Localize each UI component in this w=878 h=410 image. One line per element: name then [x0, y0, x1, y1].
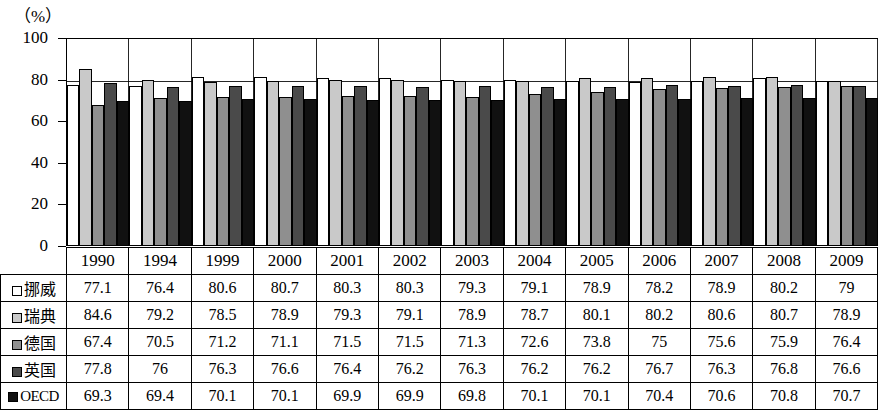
table-cell: 79.1	[503, 275, 565, 302]
table-cell: 76.2	[503, 356, 565, 383]
bar	[653, 89, 665, 245]
table-cell: 78.9	[254, 302, 316, 329]
bar	[691, 81, 703, 245]
table-cell: 78.7	[503, 302, 565, 329]
bar	[79, 69, 91, 245]
table-year-header: 1999	[191, 248, 253, 275]
bar	[317, 78, 329, 245]
legend-item-德国: 德国	[1, 329, 67, 356]
table-row: 德国67.470.571.271.171.571.571.372.673.875…	[1, 329, 878, 356]
table-cell: 80.2	[753, 275, 815, 302]
table-cell: 72.6	[503, 329, 565, 356]
bar	[379, 78, 391, 245]
white-square-icon	[12, 286, 22, 296]
table-year-header: 1994	[129, 248, 191, 275]
table-cell: 76.3	[191, 356, 253, 383]
table-cell: 71.3	[441, 329, 503, 356]
table-corner-cell	[1, 248, 67, 275]
table-year-header: 2006	[628, 248, 690, 275]
table-cell: 78.9	[441, 302, 503, 329]
bar	[304, 99, 316, 245]
table-cell: 80.6	[191, 275, 253, 302]
bar	[479, 86, 491, 245]
table-cell: 70.1	[254, 383, 316, 410]
bar	[441, 80, 453, 245]
table-cell: 79.2	[129, 302, 191, 329]
medium-gray-square-icon	[12, 340, 22, 350]
table-cell: 70.6	[690, 383, 752, 410]
table-cell: 79.3	[441, 275, 503, 302]
table-cell: 76.6	[254, 356, 316, 383]
table-cell: 76.7	[628, 356, 690, 383]
y-axis-tick-label: 40	[31, 153, 48, 173]
bar	[841, 86, 853, 245]
bar-group	[67, 39, 129, 245]
table-cell: 78.9	[566, 275, 628, 302]
bar-group	[441, 39, 503, 245]
table-row: 挪威77.176.480.680.780.380.379.379.178.978…	[1, 275, 878, 302]
table-cell: 70.5	[129, 329, 191, 356]
y-axis-tick-mark	[58, 38, 66, 39]
table-cell: 76.3	[441, 356, 503, 383]
legend-item-label: 英国	[24, 362, 55, 379]
legend-item-OECD: OECD	[1, 383, 67, 410]
bar	[828, 81, 840, 245]
y-axis-tick-mark	[58, 204, 66, 205]
table-cell: 79.3	[316, 302, 378, 329]
bar-group	[379, 39, 441, 245]
bar	[666, 85, 678, 245]
table-cell: 76.2	[566, 356, 628, 383]
table-cell: 70.1	[566, 383, 628, 410]
bar-group	[816, 39, 878, 245]
bar	[716, 88, 728, 245]
table-cell: 80.7	[753, 302, 815, 329]
table-cell: 80.2	[628, 302, 690, 329]
table-cell: 69.9	[378, 383, 440, 410]
bar-group	[129, 39, 191, 245]
bar	[404, 96, 416, 245]
bar-groups	[67, 39, 878, 245]
table-year-header: 2001	[316, 248, 378, 275]
y-axis-tick-mark	[58, 80, 66, 81]
table-cell: 78.9	[690, 275, 752, 302]
bar-group	[753, 39, 815, 245]
bar	[554, 99, 566, 245]
bar	[591, 92, 603, 246]
bar	[703, 77, 715, 245]
bar	[566, 81, 578, 245]
table-cell: 69.4	[129, 383, 191, 410]
bar	[803, 98, 815, 245]
table-year-header: 2004	[503, 248, 565, 275]
bar-group	[317, 39, 379, 245]
bar	[629, 82, 641, 245]
table-cell: 80.3	[316, 275, 378, 302]
table-cell: 78.2	[628, 275, 690, 302]
table-cell: 77.8	[67, 356, 129, 383]
bar	[204, 82, 216, 245]
table-cell: 78.9	[815, 302, 877, 329]
table-cell: 71.5	[316, 329, 378, 356]
legend-item-label: 挪威	[24, 281, 55, 298]
bar	[579, 78, 591, 245]
bar-group	[254, 39, 316, 245]
table-cell: 76.2	[378, 356, 440, 383]
table-cell: 75	[628, 329, 690, 356]
bar	[254, 77, 266, 245]
table-cell: 69.9	[316, 383, 378, 410]
table-cell: 79	[815, 275, 877, 302]
plot-area	[66, 38, 878, 246]
y-axis-tick-label: 60	[31, 111, 48, 131]
bar	[728, 86, 740, 245]
table-header-row: 1990199419992000200120022003200420052006…	[1, 248, 878, 275]
table-year-header: 1990	[67, 248, 129, 275]
bar	[292, 86, 304, 245]
data-table: 1990199419992000200120022003200420052006…	[0, 247, 878, 410]
bar	[391, 80, 403, 245]
bar	[466, 97, 478, 245]
table-cell: 71.5	[378, 329, 440, 356]
bar	[192, 77, 204, 245]
bar	[129, 86, 141, 245]
table-cell: 80.3	[378, 275, 440, 302]
y-axis-tick-label: 80	[31, 70, 48, 90]
